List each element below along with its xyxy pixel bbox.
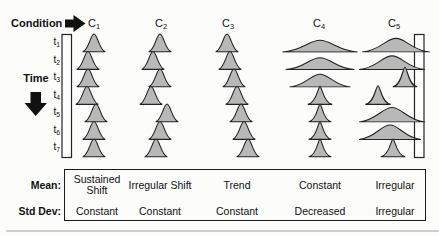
condition-label-c2: C2 xyxy=(147,17,175,30)
distribution-curve-c2-t1 xyxy=(149,34,172,52)
distribution-curve-c1-t6 xyxy=(83,122,106,140)
distribution-curve-c3-t4 xyxy=(226,87,249,105)
distribution-curves-layer xyxy=(76,34,430,157)
distribution-curve-c5-t7 xyxy=(381,139,405,157)
distribution-curve-c3-t2 xyxy=(219,52,242,70)
time-tick-t5: t5 xyxy=(38,106,60,118)
time-bracket-left xyxy=(62,35,72,158)
time-tick-t4: t4 xyxy=(38,89,60,101)
condition-label-c5: C5 xyxy=(380,17,408,30)
mean-row-label: Mean: xyxy=(10,179,61,191)
time-tick-t2: t2 xyxy=(38,54,60,66)
distribution-curve-c4-t2 xyxy=(286,58,355,70)
distribution-curve-c4-t1 xyxy=(282,40,357,52)
stddev-value-c2: Constant xyxy=(125,204,195,218)
distribution-curve-c3-t1 xyxy=(216,34,239,52)
distribution-curve-c1-t7 xyxy=(83,139,106,157)
distribution-curve-c5-t6 xyxy=(359,125,421,139)
distribution-curve-c3-t3 xyxy=(223,69,246,87)
page-edge-shadow xyxy=(6,230,439,232)
mean-value-c3: Trend xyxy=(205,174,269,196)
distribution-curve-c2-t2 xyxy=(142,52,165,70)
diagram-canvas: Condition Time C1C2C3C4C5 t1t2t3t4t5t6t7… xyxy=(0,0,439,236)
distribution-curve-c4-t4 xyxy=(308,87,332,105)
distribution-curve-c3-t6 xyxy=(233,122,256,140)
stddev-value-c5: Irregular xyxy=(360,204,430,218)
stddev-value-c1: Constant xyxy=(62,204,132,218)
mean-value-c1: Sustained Shift xyxy=(65,174,129,196)
distribution-curve-c3-t7 xyxy=(237,139,260,157)
distribution-curve-c1-t2 xyxy=(77,52,100,70)
distribution-curve-c4-t5 xyxy=(309,104,332,122)
distribution-curve-c5-t4 xyxy=(365,86,390,105)
stddev-value-c3: Constant xyxy=(202,204,272,218)
condition-label: Condition xyxy=(11,17,62,29)
time-tick-t1: t1 xyxy=(38,36,60,48)
time-tick-t3: t3 xyxy=(38,71,60,83)
mean-value-c2: Irregular Shift xyxy=(128,174,192,196)
distribution-curve-c2-t5 xyxy=(156,104,179,122)
condition-label-c4: C4 xyxy=(305,17,333,30)
distribution-curve-c1-t5 xyxy=(85,104,108,122)
distribution-curve-c1-t1 xyxy=(83,34,106,52)
distribution-curve-c2-t4 xyxy=(140,87,163,105)
distribution-curve-c5-t3 xyxy=(393,67,417,87)
distribution-curve-c1-t4 xyxy=(76,87,99,105)
distribution-curve-c2-t6 xyxy=(149,122,172,140)
mean-value-c5: Irregular xyxy=(363,174,427,196)
distribution-curve-c2-t3 xyxy=(149,69,172,87)
distribution-curve-c2-t7 xyxy=(145,139,168,157)
stddev-value-c4: Decreased xyxy=(285,204,355,218)
stddev-row-label: Std Dev: xyxy=(10,205,61,217)
distribution-curve-c4-t6 xyxy=(309,122,332,140)
time-tick-t7: t7 xyxy=(38,141,60,153)
mean-value-c4: Constant xyxy=(288,174,352,196)
time-tick-t6: t6 xyxy=(38,124,60,136)
distribution-curve-c4-t3 xyxy=(289,74,350,87)
distribution-curve-c1-t3 xyxy=(77,69,100,87)
distribution-curve-c4-t7 xyxy=(309,139,332,157)
condition-label-c3: C3 xyxy=(214,17,242,30)
distribution-curve-c3-t5 xyxy=(230,104,253,122)
condition-label-c1: C1 xyxy=(80,17,108,30)
